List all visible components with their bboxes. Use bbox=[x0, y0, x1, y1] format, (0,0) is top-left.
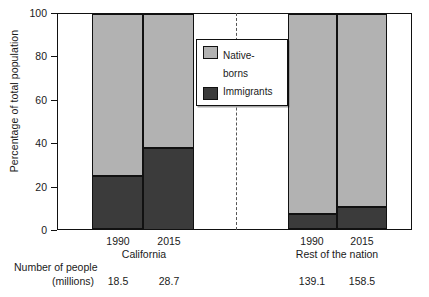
bar-segment-immigrants bbox=[143, 148, 194, 230]
footnote-value-nation-2015: 158.5 bbox=[349, 275, 375, 287]
y-tick-label-40: 40 bbox=[16, 137, 47, 149]
bar-segment-immigrants bbox=[92, 176, 143, 230]
x-tick-label-california-2015: 2015 bbox=[157, 235, 180, 247]
legend: Native- borns Immigrants bbox=[196, 39, 288, 106]
bar-segment-immigrants bbox=[337, 207, 387, 230]
legend-item-native-borns: Native- borns bbox=[203, 45, 282, 81]
footnote-value-california-2015: 28.7 bbox=[159, 275, 179, 287]
legend-label-line2: borns bbox=[223, 68, 248, 79]
y-tick-label-80: 80 bbox=[16, 50, 47, 62]
bar-california-2015 bbox=[143, 14, 194, 230]
bar-rest-of-nation-1990 bbox=[288, 14, 337, 230]
stacked-bar-chart: Percentage of total population 100 80 60… bbox=[0, 0, 429, 297]
y-tick-mark-0 bbox=[51, 230, 57, 231]
bar-rest-of-nation-2015 bbox=[337, 14, 387, 230]
y-tick-label-20: 20 bbox=[16, 181, 47, 193]
y-tick-label-60: 60 bbox=[16, 94, 47, 106]
footnote-value-nation-1990: 139.1 bbox=[299, 275, 325, 287]
footnote-value-california-1990: 18.5 bbox=[108, 275, 128, 287]
bar-segment-immigrants bbox=[288, 214, 337, 230]
legend-swatch-immigrants bbox=[203, 87, 218, 100]
bar-segment-native-borns bbox=[337, 14, 387, 207]
bar-segment-native-borns bbox=[92, 14, 143, 176]
legend-item-immigrants: Immigrants bbox=[203, 86, 282, 100]
bar-segment-native-borns bbox=[288, 14, 337, 214]
x-tick-label-nation-2015: 2015 bbox=[350, 235, 373, 247]
group-label-california: California bbox=[122, 248, 166, 260]
bar-california-1990 bbox=[92, 14, 143, 230]
footnote-label-line2: (millions) bbox=[52, 275, 94, 287]
y-tick-label-100: 100 bbox=[16, 7, 47, 19]
legend-swatch-native-borns bbox=[203, 46, 218, 59]
legend-label-native-borns: Native- borns bbox=[223, 45, 255, 81]
x-tick-label-nation-1990: 1990 bbox=[300, 235, 323, 247]
group-label-rest-of-nation: Rest of the nation bbox=[296, 248, 378, 260]
legend-label-immigrants: Immigrants bbox=[223, 86, 272, 97]
y-tick-label-0: 0 bbox=[16, 224, 47, 236]
footnote-label-line1: Number of people bbox=[14, 261, 97, 273]
x-tick-label-california-1990: 1990 bbox=[106, 235, 129, 247]
bar-segment-native-borns bbox=[143, 14, 194, 148]
legend-label-line1: Native- bbox=[223, 50, 255, 61]
